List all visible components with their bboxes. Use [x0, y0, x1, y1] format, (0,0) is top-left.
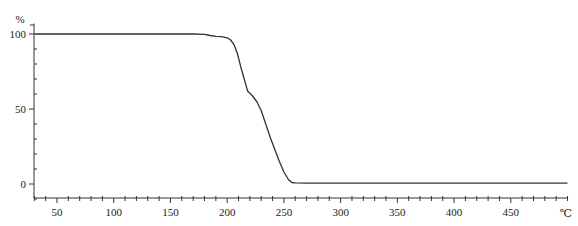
ticks	[29, 25, 568, 203]
x-tick-label: 350	[389, 206, 406, 218]
x-tick-label: 50	[52, 206, 64, 218]
y-tick-label: 50	[15, 103, 27, 115]
x-tick-label: 200	[219, 206, 236, 218]
series-line-tga	[34, 34, 567, 183]
y-tick-label: 0	[21, 178, 27, 190]
x-tick-label: 300	[332, 206, 349, 218]
tga-line-chart: 05010050100150200250300350400450 % ℃	[0, 0, 578, 226]
axes	[34, 24, 568, 199]
y-tick-label: 100	[10, 28, 27, 40]
tick-labels: 05010050100150200250300350400450	[10, 28, 520, 218]
x-tick-label: 400	[446, 206, 463, 218]
x-tick-label: 100	[105, 206, 122, 218]
chart-canvas: 05010050100150200250300350400450 % ℃	[0, 0, 578, 226]
x-unit-label: ℃	[560, 207, 572, 219]
y-unit-label: %	[15, 13, 24, 25]
x-tick-label: 450	[503, 206, 520, 218]
x-tick-label: 150	[162, 206, 179, 218]
x-tick-label: 250	[276, 206, 293, 218]
